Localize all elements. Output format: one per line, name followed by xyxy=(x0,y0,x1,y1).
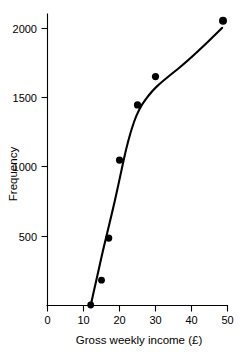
data-point xyxy=(152,73,159,80)
data-point xyxy=(105,235,112,242)
x-tick-label-50: 50 xyxy=(221,314,233,326)
cumulative-frequency-chart: 2000 1500 1000 500 0 10 20 30 40 50 Gros… xyxy=(0,0,244,352)
x-tick-label-10: 10 xyxy=(77,314,89,326)
data-point xyxy=(98,277,105,284)
data-point-markers xyxy=(87,17,227,309)
x-tick-label-30: 30 xyxy=(149,314,161,326)
x-tick-label-0: 0 xyxy=(44,314,50,326)
data-point xyxy=(134,101,141,108)
data-point xyxy=(116,157,123,164)
y-tick-label-500: 500 xyxy=(19,231,37,243)
frequency-curve xyxy=(91,28,223,306)
data-point xyxy=(87,302,94,309)
x-axis-title: Gross weekly income (£) xyxy=(76,334,203,346)
chart-figure: 2000 1500 1000 500 0 10 20 30 40 50 Gros… xyxy=(0,0,244,352)
x-tick-label-20: 20 xyxy=(113,314,125,326)
x-axis-tick-labels: 0 10 20 30 40 50 xyxy=(44,314,233,326)
y-axis-ticks xyxy=(42,29,48,237)
data-point xyxy=(219,17,227,25)
y-axis-title: Frequency xyxy=(7,147,19,202)
x-axis-ticks xyxy=(48,306,228,312)
y-tick-label-1500: 1500 xyxy=(13,92,37,104)
y-axis-tick-labels: 2000 1500 1000 500 xyxy=(13,23,37,243)
y-tick-label-2000: 2000 xyxy=(13,23,37,35)
x-tick-label-40: 40 xyxy=(185,314,197,326)
